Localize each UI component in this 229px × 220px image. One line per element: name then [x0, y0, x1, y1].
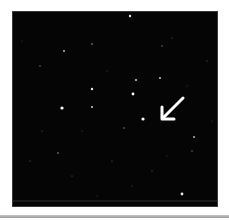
- star: [22, 41, 23, 42]
- star: [123, 127, 125, 129]
- star: [91, 106, 93, 108]
- star: [111, 160, 112, 161]
- star: [171, 37, 172, 38]
- star: [181, 193, 184, 196]
- star: [41, 130, 42, 131]
- star: [57, 152, 59, 154]
- star: [97, 196, 98, 197]
- star: [161, 45, 162, 46]
- star: [187, 86, 188, 87]
- star: [82, 131, 83, 132]
- star: [91, 88, 93, 90]
- star: [167, 156, 168, 157]
- star: [135, 79, 137, 81]
- star: [39, 65, 40, 66]
- star: [132, 186, 133, 187]
- star: [212, 121, 213, 122]
- star: [29, 160, 30, 161]
- star: [191, 150, 192, 151]
- bottom-divider: [0, 215, 229, 218]
- star-field-overlay: [12, 11, 218, 207]
- star: [151, 170, 152, 171]
- star: [141, 117, 144, 120]
- star: [91, 43, 93, 45]
- star: [63, 50, 65, 52]
- star: [60, 106, 63, 109]
- star: [193, 136, 195, 138]
- arrow-down-left-icon: [162, 98, 183, 119]
- star: [159, 77, 161, 79]
- star: [129, 15, 131, 17]
- star: [132, 93, 135, 96]
- star: [71, 175, 72, 176]
- star: [107, 71, 108, 72]
- star: [206, 60, 207, 61]
